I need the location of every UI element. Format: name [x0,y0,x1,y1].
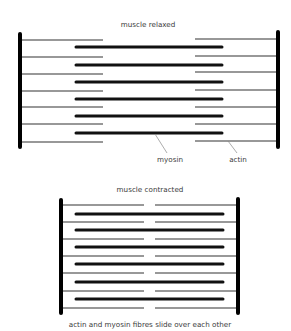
contracted-sarcomere: muscle contracted [61,185,238,313]
label-myosin: myosin [157,155,183,164]
diagram-title: muscle relaxed [121,20,176,29]
leader-line [228,141,237,153]
muscle-contraction-diagram: muscle relaxedmyosinactin muscle contrac… [0,0,291,331]
label-actin: actin [229,155,247,164]
leader-line [155,134,167,153]
relaxed-sarcomere: muscle relaxedmyosinactin [20,20,278,164]
diagram-title: muscle contracted [117,185,184,194]
caption: actin and myosin fibres slide over each … [69,320,232,329]
